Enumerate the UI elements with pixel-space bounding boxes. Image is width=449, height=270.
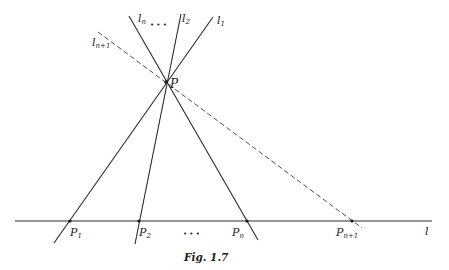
point-P2 [137, 219, 140, 222]
line-ln [129, 16, 258, 240]
lines-layer [15, 14, 432, 244]
point-P [164, 80, 168, 84]
point-P-label: P [169, 77, 179, 91]
point-label-Pn: Pn [231, 226, 244, 240]
line-label-ln: ln [138, 12, 147, 26]
line-l2 [135, 14, 181, 244]
points-layer [68, 80, 353, 222]
point-P1 [68, 219, 71, 222]
top-ellipsis: • • • [150, 21, 167, 29]
line-ln+1 [98, 32, 362, 228]
projective-pencil-diagram: Fig. 1.7 • • • • • • P l l1l2lnln+1P1P2P… [0, 0, 449, 270]
line-label-l1: l1 [217, 14, 225, 28]
baseline-label: l [425, 225, 429, 238]
line-l1 [54, 17, 213, 243]
point-Pn [245, 219, 248, 222]
point-label-P2: P2 [138, 226, 151, 240]
point-label-Pn+1: Pn+1 [335, 226, 358, 240]
point-label-P1: P1 [69, 226, 82, 240]
bottom-ellipsis: • • • [183, 230, 200, 238]
line-label-ln+1: ln+1 [92, 36, 110, 50]
line-label-l2: l2 [182, 12, 191, 26]
figure-caption: Fig. 1.7 [183, 251, 229, 263]
point-Pn+1 [350, 219, 353, 222]
